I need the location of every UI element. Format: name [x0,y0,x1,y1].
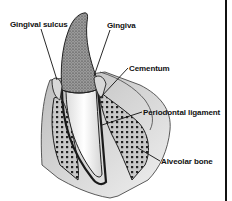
frame-border-line [225,0,227,201]
label-periodontal-ligament: Periodontal ligament [143,108,220,117]
label-gingival-sulcus: Gingival sulcus [10,20,68,29]
leader-gingiva [94,30,110,76]
tooth-illustration [0,0,232,201]
label-gingiva: Gingiva [107,21,136,30]
label-alveolar-bone: Alveolar bone [161,157,213,166]
leader-gingival-sulcus [41,29,57,80]
label-cementum: Cementum [129,64,170,73]
